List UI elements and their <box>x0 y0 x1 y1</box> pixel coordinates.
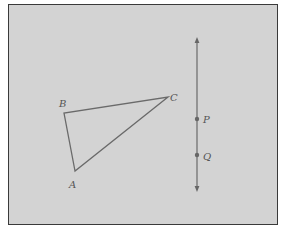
triangle-abc <box>64 97 168 171</box>
label-a: A <box>68 179 76 190</box>
label-p: P <box>202 114 210 125</box>
label-q: Q <box>203 151 211 162</box>
point-p <box>195 117 199 121</box>
diagram-canvas: B C A P Q <box>0 0 286 233</box>
label-b: B <box>58 98 66 109</box>
label-c: C <box>170 92 178 103</box>
point-q <box>195 153 199 157</box>
